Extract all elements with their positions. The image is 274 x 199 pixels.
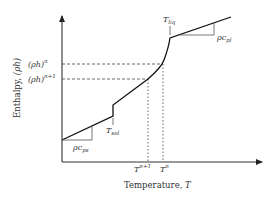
x-marker-t-n1: Tn+1 — [134, 163, 151, 174]
x-marker-t-n: Tn — [160, 163, 169, 174]
y-axis-label: Enthalpy, (ρh) — [12, 58, 22, 118]
t-liq-label: Tliq — [163, 15, 176, 26]
slope-liquid-label: ρcpl — [216, 33, 232, 44]
slope-solid-label: ρcps — [72, 143, 89, 154]
y-marker-rho-h-n1: (ρh)n+1 — [28, 73, 56, 84]
enthalpy-curve — [62, 17, 231, 140]
t-sol-label: Tsol — [106, 126, 119, 136]
x-axis-label: Temperature, T — [124, 180, 192, 190]
y-marker-rho-h-n: (ρh)n — [28, 58, 48, 69]
enthalpy-temperature-diagram: (ρh)n (ρh)n+1 Enthalpy, (ρh) Tn+1 Tn Tem… — [0, 0, 274, 199]
